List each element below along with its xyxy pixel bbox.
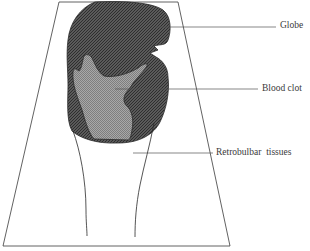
blood-clot-label: Blood clot [262,84,302,94]
orbit-diagram [0,0,310,251]
retrobulbar-tissues-label: Retrobulbar tissues [216,148,291,158]
globe-label: Globe [280,21,303,31]
retrobulbar-left-curve [73,131,87,236]
